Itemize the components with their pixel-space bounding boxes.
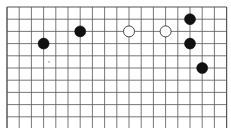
black-stone: [185, 38, 196, 49]
white-stone: [124, 26, 135, 37]
black-stone: [75, 26, 86, 37]
white-stone: [160, 26, 171, 37]
black-stone: [38, 38, 49, 49]
board-dot-mark: [48, 61, 50, 63]
black-stone: [185, 14, 196, 25]
board-marks: [48, 61, 50, 63]
black-stone: [197, 63, 208, 74]
go-board: [0, 0, 231, 135]
board-background: [0, 0, 231, 135]
